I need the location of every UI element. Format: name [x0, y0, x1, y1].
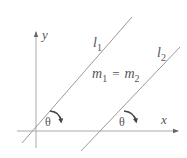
- line-l2-label: l2: [157, 45, 166, 63]
- x-axis-label: x: [160, 112, 167, 127]
- angle-label-l2: θ: [119, 115, 125, 129]
- parallel-lines-diagram: y x l1 l2 m1=m2 θ θ: [0, 0, 187, 158]
- angle-label-l1: θ: [45, 115, 51, 129]
- angle-arc-icon: [50, 111, 61, 121]
- y-axis-label: y: [40, 27, 48, 42]
- line-l1-label: l1: [93, 35, 102, 53]
- slope-equation: m1=m2: [92, 66, 140, 84]
- angle-arc-icon: [124, 111, 136, 121]
- angle-marker-l2: θ: [119, 111, 136, 129]
